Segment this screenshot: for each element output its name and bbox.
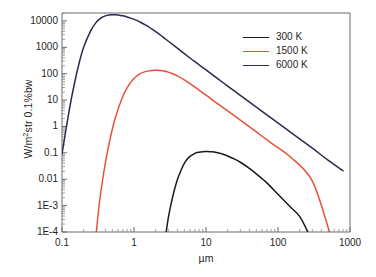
legend-label: 6000 K — [276, 60, 308, 70]
legend-item[interactable]: 1500 K — [243, 44, 308, 58]
legend-item[interactable]: 6000 K — [243, 58, 308, 72]
x-tick-label: 1 — [112, 238, 156, 248]
legend-line-swatch — [243, 65, 269, 66]
legend-line-swatch — [243, 51, 269, 52]
x-axis-title: µm — [62, 252, 350, 264]
x-tick-label: 0.1 — [40, 238, 84, 248]
legend-label: 300 K — [276, 32, 302, 42]
x-tick-label: 10 — [184, 238, 228, 248]
x-axis-tick-labels: 0.11101001000 — [0, 0, 376, 277]
legend: 300 K1500 K6000 K — [243, 30, 308, 72]
legend-line-swatch — [243, 37, 269, 38]
legend-label: 1500 K — [276, 46, 308, 56]
legend-item[interactable]: 300 K — [243, 30, 308, 44]
x-tick-label: 100 — [256, 238, 300, 248]
x-tick-label: 1000 — [328, 238, 372, 248]
blackbody-radiance-chart: W/m2str 0.1%bw 1000010001001010.10.011E-… — [0, 0, 376, 277]
